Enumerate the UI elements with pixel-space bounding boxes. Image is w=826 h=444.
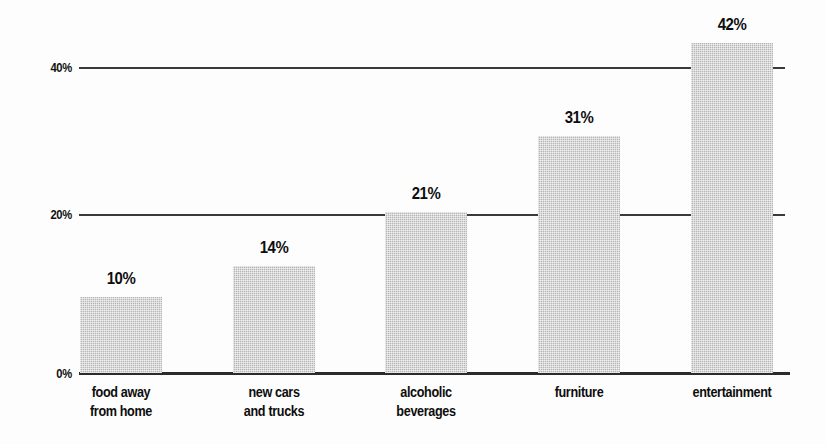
plot-area: 40% 20% 0% 10% 14% 21% 31% 42% food away… [0, 0, 826, 444]
ytick-label-40: 40% [20, 60, 72, 75]
category-label-line: and trucks [213, 402, 335, 421]
category-label-line: beverages [365, 402, 487, 421]
category-label-furniture: furniture [518, 383, 640, 402]
bar-new-cars-and-trucks[interactable] [233, 266, 315, 373]
bar-value-new-cars-and-trucks: 14% [238, 238, 310, 258]
category-label-entertainment: entertainment [671, 383, 793, 402]
category-label-new-cars-and-trucks: new cars and trucks [213, 383, 335, 421]
category-label-line: food away [60, 383, 182, 402]
ytick-label-0: 0% [20, 366, 72, 381]
bar-chart: 40% 20% 0% 10% 14% 21% 31% 42% food away… [0, 0, 826, 444]
bar-entertainment[interactable] [691, 43, 773, 373]
category-label-line: alcoholic [365, 383, 487, 402]
bar-value-food-away-from-home: 10% [85, 269, 157, 289]
category-label-food-away-from-home: food away from home [60, 383, 182, 421]
bar-furniture[interactable] [538, 136, 620, 373]
bar-value-alcoholic-beverages: 21% [390, 184, 462, 204]
gridline-40 [79, 67, 785, 69]
category-label-line: new cars [213, 383, 335, 402]
category-label-alcoholic-beverages: alcoholic beverages [365, 383, 487, 421]
bar-value-furniture: 31% [543, 108, 615, 128]
category-label-line: furniture [518, 383, 640, 402]
category-label-line: from home [60, 402, 182, 421]
category-label-line: entertainment [671, 383, 793, 402]
bar-value-entertainment: 42% [696, 15, 768, 35]
bar-food-away-from-home[interactable] [80, 297, 162, 373]
bar-alcoholic-beverages[interactable] [385, 212, 467, 373]
ytick-label-20: 20% [20, 207, 72, 222]
